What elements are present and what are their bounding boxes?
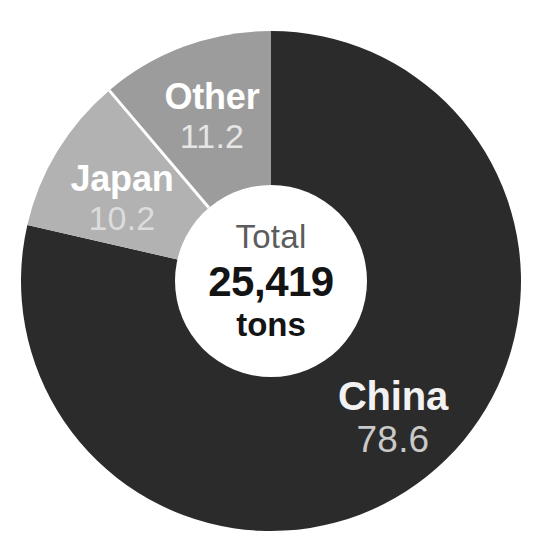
center-total-unit: tons <box>236 308 306 343</box>
donut-chart: China 78.6 Other 11.2 Japan 10.2 Total 2… <box>0 0 540 558</box>
slice-label-japan-name: Japan <box>56 161 188 197</box>
slice-label-other-name: Other <box>150 79 274 115</box>
center-total-label: Total <box>235 220 306 253</box>
slice-label-japan: Japan 10.2 <box>56 161 188 235</box>
slice-label-china-name: China <box>318 376 468 416</box>
slice-label-other-value: 11.2 <box>150 119 274 153</box>
donut-center-text: Total 25,419 tons <box>171 181 371 381</box>
slice-label-other: Other 11.2 <box>150 79 274 153</box>
center-total-value: 25,419 <box>208 260 333 304</box>
slice-label-china: China 78.6 <box>318 376 468 458</box>
slice-label-japan-value: 10.2 <box>56 201 188 235</box>
slice-label-china-value: 78.6 <box>318 421 468 458</box>
